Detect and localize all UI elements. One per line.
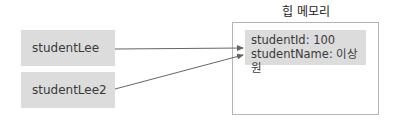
arrow-studentlee-to-object bbox=[115, 48, 243, 49]
arrow-studentlee2-to-object bbox=[115, 55, 243, 89]
reference-arrows bbox=[0, 0, 401, 123]
